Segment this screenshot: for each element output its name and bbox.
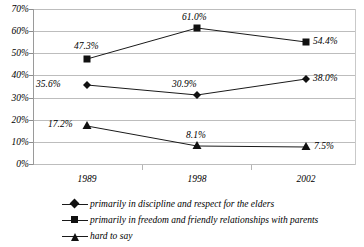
data-label-hardtosay-1998: 8.1% — [186, 130, 206, 140]
legend-label-hardtosay: hard to say — [88, 230, 132, 242]
diamond-marker-icon — [62, 198, 88, 211]
data-label-freedom-1998: 61.0% — [182, 12, 207, 22]
marker-freedom-1998 — [194, 25, 201, 32]
marker-freedom-2002 — [303, 39, 310, 46]
data-label-discipline-1989: 35.6% — [36, 79, 61, 89]
data-label-freedom-1989: 47.3% — [74, 41, 99, 51]
triangle-marker-icon — [62, 230, 88, 243]
data-label-discipline-2002: 38.0% — [313, 73, 338, 83]
legend-label-discipline: primarily in discipline and respect for … — [88, 198, 274, 210]
line-chart: 70% 60% 50% 40% 30% 20% 10% 0% 1989 1998… — [0, 0, 364, 247]
legend-label-freedom: primarily in freedom and friendly relati… — [88, 214, 318, 226]
legend-item-freedom[interactable]: primarily in freedom and friendly relati… — [62, 212, 362, 228]
data-label-hardtosay-1989: 17.2% — [48, 119, 73, 129]
data-label-discipline-1998: 30.9% — [172, 79, 197, 89]
square-marker-icon — [62, 214, 88, 227]
series-line-freedom — [87, 28, 306, 59]
legend-item-discipline[interactable]: primarily in discipline and respect for … — [62, 196, 362, 212]
data-label-freedom-2002: 54.4% — [313, 36, 338, 46]
data-label-hardtosay-2002: 7.5% — [314, 141, 334, 151]
legend-item-hardtosay[interactable]: hard to say — [62, 228, 362, 244]
marker-freedom-1989 — [84, 56, 91, 63]
marker-discipline-1998 — [193, 91, 201, 99]
marker-hardtosay-1989 — [83, 121, 92, 129]
marker-hardtosay-2002 — [302, 142, 311, 150]
marker-discipline-1989 — [83, 81, 91, 89]
marker-discipline-2002 — [302, 75, 310, 83]
chart-legend: primarily in discipline and respect for … — [62, 196, 362, 244]
